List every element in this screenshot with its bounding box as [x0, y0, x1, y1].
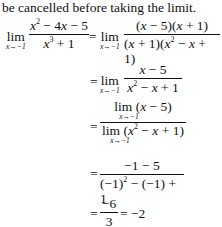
numerator: −6 — [102, 196, 116, 211]
fraction-bar — [29, 34, 89, 35]
denominator: x2 − x + 1 — [127, 80, 179, 95]
numerator: x2 − 4x − 5 — [30, 18, 88, 33]
equals-sign: = — [90, 119, 98, 135]
fraction-factored: (x − 5)(x + 1) (x + 1)(x2 − x + 1) — [124, 18, 220, 66]
lim-subscript: x→−1 — [110, 137, 130, 145]
numerator: (x − 5)(x + 1) — [136, 18, 208, 33]
intro-text: be cancelled before taking the limit. — [2, 0, 196, 16]
lim-subscript: x→−1 — [100, 43, 120, 51]
lim-subscript: x→−1 — [6, 43, 26, 51]
fraction-simplified: x − 5 x2 − x + 1 — [124, 62, 182, 95]
equals-sign: = — [90, 206, 98, 222]
fraction-original: x2 − 4x − 5 x3 + 1 — [29, 18, 89, 51]
limit-operator: lim x→−1 — [100, 74, 120, 95]
final-result: = −2 — [120, 206, 145, 222]
numerator: x − 5 — [139, 62, 166, 77]
limit-operator: lim x→−1 — [6, 30, 26, 51]
equals-sign: = — [90, 74, 98, 90]
equals-sign: = — [89, 29, 97, 45]
lim-subscript: x→−1 — [119, 113, 139, 121]
denominator: 3 — [106, 214, 113, 227]
lim-subscript: x→−1 — [100, 87, 120, 95]
limit-operator: lim x→−1 — [100, 30, 120, 51]
fraction-limit-quotient: lim (x − 5) x→−1 lim (x2 − x + 1) x→−1 — [100, 100, 186, 145]
fraction-result: −6 3 — [100, 196, 118, 227]
equals-sign: = — [90, 166, 98, 182]
fraction-bar — [100, 174, 184, 175]
numerator: −1 − 5 — [124, 158, 159, 173]
denominator: x3 + 1 — [43, 36, 74, 51]
fraction-bar — [100, 212, 118, 213]
